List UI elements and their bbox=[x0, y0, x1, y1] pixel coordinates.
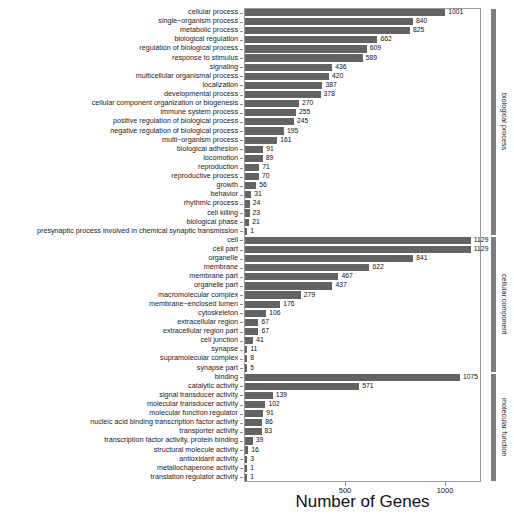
category-label: structural molecule activity bbox=[154, 445, 238, 454]
y-axis-tick bbox=[240, 22, 243, 23]
table-row: response to stimulus589 bbox=[0, 54, 514, 63]
y-axis-tick bbox=[240, 76, 243, 77]
table-row: biological regulation662 bbox=[0, 35, 514, 44]
y-axis-tick bbox=[240, 286, 243, 287]
bar-value-label: 1001 bbox=[448, 7, 463, 16]
table-row: signaling436 bbox=[0, 63, 514, 72]
bar-value-label: 255 bbox=[299, 107, 310, 116]
bar bbox=[245, 137, 277, 144]
category-label: cellular component organization or bioge… bbox=[92, 98, 238, 107]
table-row: binding1075 bbox=[0, 373, 514, 382]
category-label: membrane bbox=[204, 262, 238, 271]
table-row: membrane part467 bbox=[0, 272, 514, 281]
table-row: reproduction71 bbox=[0, 163, 514, 172]
category-label: organelle bbox=[208, 253, 238, 262]
bar bbox=[245, 9, 445, 16]
bar-value-label: 1 bbox=[250, 472, 254, 481]
bar-value-label: 56 bbox=[259, 180, 267, 189]
table-row: antioxidant activity3 bbox=[0, 455, 514, 464]
table-row: cellular process1001 bbox=[0, 8, 514, 17]
y-axis-tick bbox=[240, 414, 243, 415]
y-axis-tick bbox=[240, 168, 243, 169]
y-axis-tick bbox=[240, 377, 243, 378]
group-label: cellular component bbox=[497, 237, 511, 372]
bar-value-label: 161 bbox=[280, 135, 291, 144]
bar bbox=[245, 191, 251, 198]
y-axis-tick bbox=[240, 204, 243, 205]
bar-value-label: 91 bbox=[266, 408, 274, 417]
bar bbox=[245, 54, 363, 61]
table-row: positive regulation of biological proces… bbox=[0, 117, 514, 126]
y-axis-tick bbox=[240, 423, 243, 424]
category-label: signal transducer activity bbox=[159, 390, 238, 399]
category-label: synapse part bbox=[197, 363, 238, 372]
y-axis-tick bbox=[240, 259, 243, 260]
bar-value-label: 39 bbox=[256, 435, 264, 444]
y-axis-tick bbox=[240, 268, 243, 269]
y-axis-tick bbox=[240, 368, 243, 369]
category-label: single−organism process bbox=[158, 16, 238, 25]
ontology-group-cellular-component: cellular component bbox=[489, 237, 514, 372]
bar bbox=[245, 410, 263, 417]
bar bbox=[245, 73, 329, 80]
category-label: presynaptic process involved in chemical… bbox=[37, 226, 238, 235]
category-label: membrane−enclosed lumen bbox=[149, 299, 238, 308]
bar-value-label: 23 bbox=[253, 208, 261, 217]
y-axis-tick bbox=[240, 58, 243, 59]
table-row: membrane622 bbox=[0, 263, 514, 272]
bar-value-label: 387 bbox=[325, 80, 336, 89]
bar bbox=[245, 474, 247, 481]
category-label: locomotion bbox=[203, 153, 238, 162]
bar-value-label: 24 bbox=[253, 198, 261, 207]
bar bbox=[245, 328, 258, 335]
y-axis-tick bbox=[240, 40, 243, 41]
category-label: organelle part bbox=[194, 280, 238, 289]
category-label: supramolecular complex bbox=[160, 353, 238, 362]
bar-value-label: 420 bbox=[332, 71, 343, 80]
y-axis-tick bbox=[240, 277, 243, 278]
category-label: nucleic acid binding transcription facto… bbox=[90, 417, 238, 426]
table-row: immune system process255 bbox=[0, 108, 514, 117]
bar bbox=[245, 228, 247, 235]
bar-value-label: 195 bbox=[287, 126, 298, 135]
bar bbox=[245, 155, 263, 162]
bar-value-label: 83 bbox=[265, 426, 273, 435]
bar bbox=[245, 446, 248, 453]
y-axis-tick bbox=[240, 95, 243, 96]
bar bbox=[245, 419, 262, 426]
bar-value-label: 270 bbox=[302, 98, 313, 107]
bar-value-label: 662 bbox=[380, 34, 391, 43]
category-label: extracellular region bbox=[177, 317, 238, 326]
bar-value-label: 1 bbox=[250, 463, 254, 472]
bar-value-label: 67 bbox=[261, 326, 269, 335]
bar bbox=[245, 182, 256, 189]
table-row: cytoskeleton106 bbox=[0, 309, 514, 318]
y-axis-tick bbox=[240, 67, 243, 68]
y-axis-tick bbox=[240, 304, 243, 305]
y-axis-tick bbox=[240, 195, 243, 196]
table-row: signal transducer activity139 bbox=[0, 391, 514, 400]
bar bbox=[245, 64, 332, 71]
category-label: biological phase bbox=[186, 217, 238, 226]
category-label: multicellular organismal process bbox=[136, 71, 238, 80]
y-axis-tick bbox=[240, 13, 243, 14]
category-label: rhythmic process bbox=[184, 198, 238, 207]
category-label: localization bbox=[202, 80, 238, 89]
y-axis-tick bbox=[240, 250, 243, 251]
bar bbox=[245, 465, 247, 472]
bar-value-label: 31 bbox=[254, 189, 262, 198]
table-row: membrane−enclosed lumen176 bbox=[0, 300, 514, 309]
bar-value-label: 3 bbox=[250, 454, 254, 463]
group-color-bar bbox=[491, 9, 496, 235]
bar-value-label: 279 bbox=[304, 290, 315, 299]
table-row: catalytic activity571 bbox=[0, 382, 514, 391]
y-axis-tick bbox=[240, 459, 243, 460]
bar bbox=[245, 100, 299, 107]
bar bbox=[245, 282, 332, 289]
y-axis-tick bbox=[240, 158, 243, 159]
category-label: cytoskeleton bbox=[198, 308, 238, 317]
category-label: reproduction bbox=[198, 162, 238, 171]
bar-value-label: 589 bbox=[366, 53, 377, 62]
bar bbox=[245, 173, 259, 180]
group-label: biological process bbox=[497, 9, 511, 235]
